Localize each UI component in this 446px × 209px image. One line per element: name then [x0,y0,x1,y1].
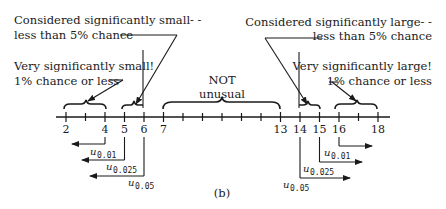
u-005-lower: u 0.05 [90,137,154,191]
annotation-large-5pct: Considered significantly large- - less t… [245,15,432,43]
pointer-lines-right [265,38,356,108]
annotation-large-5pct-line2: less than 5% chance [313,29,432,43]
u-symbol: u [324,147,330,158]
annotation-small-1pct-line2: 1% chance or less [14,74,119,88]
axis-label-18: 18 [371,123,385,136]
u-symbol: u [106,161,112,172]
u-001-upper: u 0.01 [324,137,372,161]
number-line: 2 4 5 6 7 13 14 15 16 18 [56,112,390,136]
u-001-lower: u 0.01 [72,137,116,160]
u-symbol: u [90,146,96,157]
u-symbol: u [303,163,309,174]
annotation-large-1pct-line1: Very significantly large! [292,59,432,73]
u-subscript: 0.025 [113,166,137,175]
annotation-large-1pct-line2: 1% chance or less [327,74,432,88]
axis-label-2: 2 [63,123,70,136]
axis-label-15: 15 [313,123,327,136]
axis-label-4: 4 [102,123,109,136]
annotation-small-1pct: Very significantly small! 1% chance or l… [13,59,154,88]
annotation-small-5pct-line1: Considered significantly small- - [14,13,202,27]
axis-label-5: 5 [121,123,128,136]
figure-label: (b) [214,186,230,200]
u-subscript: 0.025 [310,168,334,177]
axis-labels: 2 4 5 6 7 13 14 15 16 18 [63,123,386,136]
annotation-small-5pct: Considered significantly small- - less t… [14,13,202,42]
axis-label-7: 7 [160,123,167,136]
annotation-small-1pct-line1: Very significantly small! [13,59,154,73]
u-subscript: 0.01 [97,151,116,160]
u-subscript: 0.01 [331,152,350,161]
significance-diagram: Considered significantly small- - less t… [0,0,446,209]
axis-label-14: 14 [293,123,307,136]
annotation-not-line1: NOT [208,73,235,87]
axis-label-6: 6 [141,123,148,136]
u-symbol: u [283,179,289,190]
annotation-small-5pct-line2: less than 5% chance [14,28,133,42]
annotation-large-5pct-line1: Considered significantly large- - [245,15,432,29]
u-005-upper: u 0.05 [283,137,350,193]
u-symbol: u [128,177,134,188]
lower-critical-values: u 0.01 u 0.025 u 0.05 [72,137,154,191]
annotation-not-unusual: NOT unusual [199,73,245,101]
u-subscript: 0.05 [135,182,154,191]
upper-critical-values: u 0.01 u 0.025 u 0.05 [283,137,372,193]
axis-label-16: 16 [332,123,346,136]
axis-label-13: 13 [274,123,288,136]
annotation-large-1pct: Very significantly large! 1% chance or l… [292,59,432,88]
u-subscript: 0.05 [290,184,309,193]
